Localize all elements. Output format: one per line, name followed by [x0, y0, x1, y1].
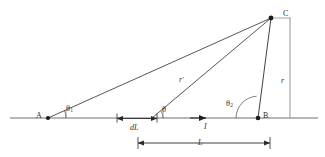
point-label-A: A [36, 112, 42, 120]
point-marker-A [46, 116, 50, 120]
length-label-r-prime-mark: ′ [182, 75, 184, 83]
ray-B-to-C [258, 18, 271, 118]
diagram-canvas [0, 0, 325, 157]
point-marker-C [269, 16, 274, 21]
point-label-B: B [263, 112, 268, 120]
length-label-dL: dL [130, 124, 138, 132]
ray-A-to-C [48, 18, 271, 118]
angle-label-theta-2-subscript: 2 [230, 102, 233, 108]
angle-label-theta-2: θ2 [226, 99, 233, 109]
angle-label-theta-1-subscript: 1 [70, 107, 73, 113]
angle-arc-theta2 [236, 96, 257, 118]
physics-diagram-figure: A B C θ1 θ θ2 r′ r dL L I [0, 0, 325, 157]
angle-label-theta-symbol: θ [162, 104, 166, 114]
point-marker-B [256, 116, 261, 121]
current-label-I: I [204, 123, 207, 131]
point-label-C: C [283, 10, 288, 18]
length-label-L: L [198, 139, 202, 147]
length-label-r: r [281, 77, 284, 85]
angle-label-theta-1: θ1 [66, 104, 73, 114]
ray-element-to-C [152, 18, 271, 118]
angle-label-theta: θ [162, 105, 166, 115]
length-label-r-prime: r′ [179, 76, 184, 84]
